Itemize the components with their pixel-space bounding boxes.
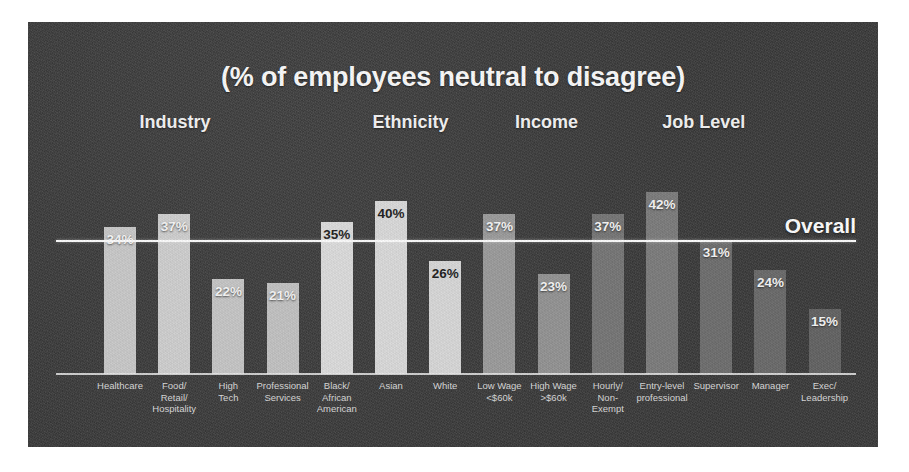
tick-label: High Tech xyxy=(201,380,255,403)
plot-area: 34%37%22%21%35%40%26%37%23%37%42%31%24%1… xyxy=(28,22,878,447)
bar: 22% xyxy=(212,279,244,374)
bar-fill xyxy=(375,201,407,374)
bar-fill xyxy=(646,192,678,374)
tick-label: Exec/ Leadership xyxy=(798,380,852,403)
tick-label: Low Wage <$60k xyxy=(472,380,526,403)
bar-value-label: 42% xyxy=(640,197,684,212)
bar-value-label: 21% xyxy=(261,288,305,303)
bar: 42% xyxy=(646,192,678,374)
bar-value-label: 31% xyxy=(694,245,738,260)
bar: 37% xyxy=(158,214,190,374)
bar-value-label: 37% xyxy=(152,219,196,234)
bar-value-label: 37% xyxy=(477,219,521,234)
tick-label: Asian xyxy=(364,380,418,392)
bar-fill xyxy=(321,222,353,374)
bar: 24% xyxy=(754,270,786,374)
tick-label: Entry-level professional xyxy=(635,380,689,403)
tick-label: Manager xyxy=(743,380,797,392)
tick-label: Food/ Retail/ Hospitality xyxy=(147,380,201,415)
tick-label: Supervisor xyxy=(689,380,743,392)
bar: 23% xyxy=(538,274,570,374)
overall-reference-line xyxy=(56,240,856,242)
chart-panel: (% of employees neutral to disagree) Ind… xyxy=(28,22,878,447)
bar-fill xyxy=(592,214,624,374)
bar-fill xyxy=(158,214,190,374)
bar-value-label: 22% xyxy=(206,284,250,299)
bar-value-label: 26% xyxy=(423,266,467,281)
tick-label: Hourly/ Non- Exempt xyxy=(581,380,635,415)
tick-label: White xyxy=(418,380,472,392)
tick-label: High Wage >$60k xyxy=(527,380,581,403)
bar: 15% xyxy=(809,309,841,374)
bar-value-label: 37% xyxy=(586,219,630,234)
bar-fill xyxy=(104,227,136,374)
slide-page: (% of employees neutral to disagree) Ind… xyxy=(0,0,909,472)
tick-label: Black/ African American xyxy=(310,380,364,415)
bar-value-label: 15% xyxy=(803,314,847,329)
bar: 40% xyxy=(375,201,407,374)
bar-value-label: 24% xyxy=(748,275,792,290)
bar: 35% xyxy=(321,222,353,374)
bar-value-label: 40% xyxy=(369,206,413,221)
axis-baseline xyxy=(56,373,856,375)
bar-value-label: 23% xyxy=(532,279,576,294)
bar-fill xyxy=(483,214,515,374)
tick-label: Professional Services xyxy=(256,380,310,403)
bar: 37% xyxy=(592,214,624,374)
overall-label: Overall xyxy=(785,214,856,238)
bar: 26% xyxy=(429,261,461,374)
bar: 21% xyxy=(267,283,299,374)
bar: 34% xyxy=(104,227,136,374)
bar: 37% xyxy=(483,214,515,374)
tick-label: Healthcare xyxy=(93,380,147,392)
bar: 31% xyxy=(700,240,732,374)
